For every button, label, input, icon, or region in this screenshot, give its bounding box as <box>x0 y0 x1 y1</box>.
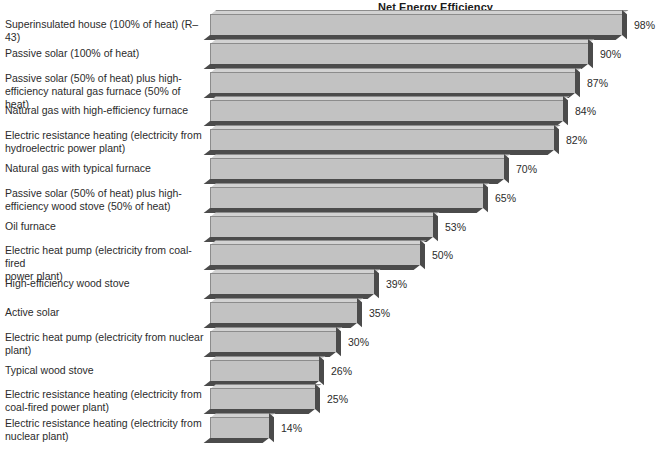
bar: 35% <box>210 302 357 327</box>
bar-category-label: Superinsulated house (100% of heat) (R–4… <box>5 18 205 44</box>
bar-category-label: Electric resistance heating (electricity… <box>5 417 205 443</box>
bar: 87% <box>210 72 575 97</box>
bar-value-label: 30% <box>348 336 369 348</box>
bar-value-label: 14% <box>281 422 302 434</box>
bar-category-label: High-efficiency wood stove <box>5 277 205 290</box>
bar-shadow <box>204 438 269 443</box>
bar-end-cap <box>319 356 324 385</box>
bar-value-label: 87% <box>587 77 608 89</box>
bar-front-face <box>210 273 374 294</box>
bar: 25% <box>210 388 315 413</box>
bar-value-label: 25% <box>327 393 348 405</box>
bar-category-label: Passive solar (100% of heat) <box>5 47 205 60</box>
bar-end-cap <box>315 384 320 413</box>
bar: 53% <box>210 216 433 241</box>
bar-front-face <box>210 216 433 237</box>
bar-category-label: Natural gas with typical furnace <box>5 162 205 175</box>
bar-value-label: 53% <box>445 221 466 233</box>
bar: 70% <box>210 158 504 183</box>
bar-front-face <box>210 187 483 208</box>
bar-category-label: Active solar <box>5 306 205 319</box>
bar-end-cap <box>554 125 559 154</box>
bar-front-face <box>210 388 315 409</box>
bar-front-face <box>210 244 420 265</box>
bar-value-label: 35% <box>369 307 390 319</box>
bar-end-cap <box>420 240 425 269</box>
bar-category-label: Natural gas with high-efficiency furnace <box>5 104 205 117</box>
bar-front-face <box>210 129 554 150</box>
bar: 98% <box>210 14 622 39</box>
bar-category-label: Passive solar (50% of heat) plus high- e… <box>5 187 205 213</box>
bar-end-cap <box>357 298 362 327</box>
bar-front-face <box>210 331 336 352</box>
bar-end-cap <box>622 10 627 39</box>
bar: 50% <box>210 244 420 269</box>
bar-end-cap <box>588 39 593 68</box>
bar-value-label: 98% <box>634 19 655 31</box>
bar: 26% <box>210 360 319 385</box>
bar-value-label: 50% <box>432 249 453 261</box>
bar: 84% <box>210 100 563 125</box>
bar-value-label: 84% <box>575 105 596 117</box>
bar-value-label: 70% <box>516 163 537 175</box>
bar-end-cap <box>575 68 580 97</box>
bar-front-face <box>210 417 269 438</box>
bar-category-label: Electric resistance heating (electricity… <box>5 129 205 155</box>
bar: 90% <box>210 43 588 68</box>
bar-category-label: Typical wood stove <box>5 364 205 377</box>
bar-end-cap <box>269 413 274 442</box>
bar: 82% <box>210 129 554 154</box>
bar-front-face <box>210 43 588 64</box>
bar-value-label: 90% <box>600 48 621 60</box>
bar-category-label: Electric heat pump (electricity from nuc… <box>5 331 205 357</box>
bar: 14% <box>210 417 269 442</box>
bar: 65% <box>210 187 483 212</box>
bar-end-cap <box>374 269 379 298</box>
bar-front-face <box>210 14 622 35</box>
bar-value-label: 65% <box>495 192 516 204</box>
bar-front-face <box>210 302 357 323</box>
bar-end-cap <box>483 183 488 212</box>
bar-front-face <box>210 72 575 93</box>
bar-front-face <box>210 100 563 121</box>
bar-category-label: Oil furnace <box>5 220 205 233</box>
bar-category-label: Electric resistance heating (electricity… <box>5 388 205 414</box>
bar-end-cap <box>433 212 438 241</box>
bar-front-face <box>210 158 504 179</box>
bar-value-label: 26% <box>331 365 352 377</box>
chart-canvas: Net Energy Efficiency Superinsulated hou… <box>0 0 663 449</box>
bar-end-cap <box>336 327 341 356</box>
bar-end-cap <box>563 96 568 125</box>
bar: 39% <box>210 273 374 298</box>
bar: 30% <box>210 331 336 356</box>
bar-value-label: 39% <box>386 278 407 290</box>
bar-value-label: 82% <box>566 134 587 146</box>
bar-front-face <box>210 360 319 381</box>
bar-rows: Superinsulated house (100% of heat) (R–4… <box>0 0 663 449</box>
bar-end-cap <box>504 154 509 183</box>
